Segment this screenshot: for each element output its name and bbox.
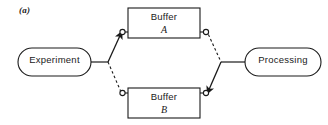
edge-junction-to-buffer-a <box>108 35 121 63</box>
buffer-b-label-group: Buffer B <box>128 92 200 115</box>
edge-junction-to-buffer-b <box>108 62 121 91</box>
experiment-label: Experiment <box>18 55 91 66</box>
buffer-a-output-terminal <box>203 29 208 34</box>
buffer-a-label: Buffer <box>128 12 200 23</box>
figure-diagram: (a) <box>0 0 328 125</box>
buffer-b-output-terminal <box>203 90 208 95</box>
buffer-a-input-terminal <box>120 29 125 34</box>
buffer-a-sublabel: A <box>128 24 200 36</box>
edge-junction-to-buffer-b-output <box>209 62 221 91</box>
buffer-b-input-terminal <box>120 90 125 95</box>
buffer-b-label: Buffer <box>128 92 200 103</box>
edge-buffer-a-to-junction <box>208 35 221 63</box>
processing-label: Processing <box>245 55 321 66</box>
buffer-b-sublabel: B <box>128 104 200 116</box>
buffer-a-label-group: Buffer A <box>128 12 200 35</box>
